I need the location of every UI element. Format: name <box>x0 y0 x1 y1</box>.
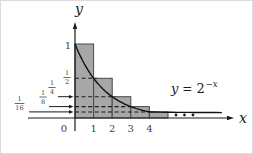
x-tick-label-2: 2 <box>109 123 115 134</box>
figure: 012341121418116y=2−xxy <box>0 0 253 154</box>
y-label-1-2: 12 <box>63 69 70 86</box>
x-axis-arrowhead <box>227 116 234 121</box>
ellipsis-dot <box>183 114 186 117</box>
fraction-denominator: 4 <box>50 88 54 96</box>
y-axis-label: y <box>74 1 84 17</box>
ellipsis-dot <box>192 114 195 117</box>
x-tick-label-1: 1 <box>90 123 96 134</box>
riemann-rect-2 <box>112 97 131 118</box>
y-label-1-16: 116 <box>15 95 25 112</box>
function-label: y=2−x <box>170 79 218 96</box>
origin-label: 0 <box>61 123 67 134</box>
y-label-1-8: 18 <box>39 89 46 106</box>
fraction-numerator: 1 <box>41 89 45 97</box>
fraction-denominator: 16 <box>15 104 23 112</box>
x-tick-label-3: 3 <box>128 123 134 134</box>
callout-arrowhead <box>69 110 74 114</box>
fraction-numerator: 1 <box>50 79 54 87</box>
fraction-denominator: 2 <box>65 78 69 86</box>
fraction-numerator: 1 <box>65 69 69 77</box>
callout-arrowhead <box>69 105 74 109</box>
y-label-1: 1 <box>65 40 71 51</box>
x-tick-label-4: 4 <box>146 123 152 134</box>
fraction-numerator: 1 <box>17 95 21 103</box>
callout-arrowhead <box>69 95 74 99</box>
y-label-1-4: 14 <box>48 79 55 96</box>
x-axis-label: x <box>239 110 247 126</box>
y-axis-arrowhead <box>73 22 77 29</box>
function-plot: 012341121418116y=2−xxy <box>0 0 253 154</box>
ellipsis-dot <box>175 114 178 117</box>
fraction-denominator: 8 <box>41 98 45 106</box>
